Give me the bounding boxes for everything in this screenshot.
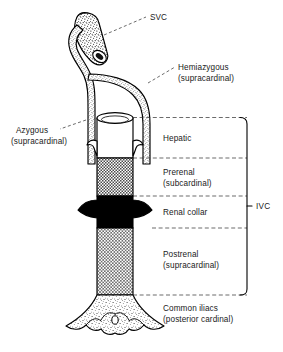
leader-svc [104,17,146,35]
hepatic-vein-right [133,140,143,156]
label-hepatic: Hepatic [163,134,191,143]
label-renal-collar: Renal collar [163,208,208,217]
renal-collar-segment [78,196,152,228]
common-iliacs-segment [66,295,164,334]
label-hemiazygous-line1: Hemiazygous [178,63,229,72]
label-postrenal-line2: (supracardinal) [163,261,219,270]
label-prerenal-line2: (subcardinal) [163,179,212,188]
label-hemiazygous-line2: (supracardinal) [178,74,234,83]
ivc-bracket [240,118,247,296]
prerenal-segment [97,158,133,196]
ivc-development-diagram: SVC Hemiazygous (supracardinal) Azygous … [0,0,283,352]
label-postrenal-line1: Postrenal [163,250,199,259]
label-azygous-line2: (supracardinal) [11,137,67,146]
label-common-iliacs-line1: Common iliacs [163,304,218,313]
leader-hemiazygous [148,67,175,83]
label-azygous-line1: Azygous [16,126,48,135]
postrenal-segment [97,228,133,295]
label-ivc: IVC [256,202,271,211]
label-svc: SVC [150,13,167,22]
leader-azygous [60,120,86,129]
label-prerenal-line1: Prerenal [163,168,195,177]
label-common-iliacs-line2: (posterior cardinal) [163,315,233,324]
